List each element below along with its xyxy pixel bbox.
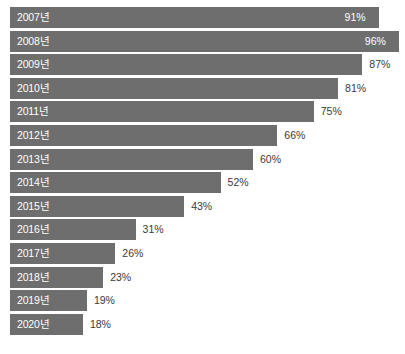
bar-row: 2008년96% [0,31,405,52]
bar-row: 2010년81% [0,78,405,99]
bar-category-label: 2008년 [17,31,49,52]
bar-value-label: 66% [284,125,305,146]
bar-row: 2017년26% [0,243,405,264]
bar-row: 2019년19% [0,290,405,311]
bar-row: 2015년43% [0,196,405,217]
bar [10,125,277,146]
bar-value-label: 60% [260,149,281,170]
bar-category-label: 2007년 [17,7,49,28]
bar [10,78,338,99]
bar-category-label: 2017년 [17,243,49,264]
bar [10,31,399,52]
bar-category-label: 2020년 [17,314,49,335]
bar-category-label: 2018년 [17,267,49,288]
bar-row: 2018년23% [0,267,405,288]
horizontal-bar-chart: 2007년91%2008년96%2009년87%2010년81%2011년75%… [0,0,405,354]
bar-category-label: 2014년 [17,172,49,193]
bar-category-label: 2012년 [17,125,49,146]
bar-value-label: 52% [228,172,249,193]
bar-category-label: 2011년 [17,101,49,122]
bar-value-label: 19% [94,290,115,311]
bar-value-label: 43% [191,196,212,217]
bar-row: 2007년91% [0,7,405,28]
bar-category-label: 2015년 [17,196,49,217]
bar-value-label: 18% [90,314,111,335]
bar-row: 2013년60% [0,149,405,170]
bar-value-label: 26% [122,243,143,264]
bar-category-label: 2013년 [17,149,49,170]
bar-row: 2016년31% [0,219,405,240]
bar-value-label: 75% [321,101,342,122]
bar-category-label: 2009년 [17,54,49,75]
bar-row: 2020년18% [0,314,405,335]
bar-category-label: 2016년 [17,219,49,240]
bar-value-label: 87% [369,54,390,75]
bar-category-label: 2010년 [17,78,49,99]
bar [10,54,362,75]
bar [10,101,314,122]
bar-category-label: 2019년 [17,290,49,311]
bar-value-label: 91% [345,7,366,28]
bar-row: 2012년66% [0,125,405,146]
bar [10,7,379,28]
bar-value-label: 81% [345,78,366,99]
bar-value-label: 96% [365,31,386,52]
bar-row: 2009년87% [0,54,405,75]
bar-row: 2011년75% [0,101,405,122]
bar-value-label: 23% [110,267,131,288]
bar-value-label: 31% [143,219,164,240]
bar-row: 2014년52% [0,172,405,193]
